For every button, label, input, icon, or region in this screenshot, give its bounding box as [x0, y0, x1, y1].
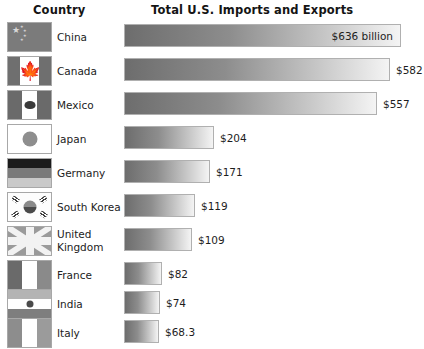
flag-germany-icon [7, 158, 52, 188]
value-bar [124, 194, 195, 217]
country-label: Mexico [57, 90, 94, 120]
country-label-line1: United [57, 228, 103, 241]
chart-header-country: Country [33, 3, 85, 17]
flag-italy-icon [7, 318, 52, 348]
country-label: Germany [57, 158, 105, 188]
country-label-line1: India [57, 298, 83, 311]
chart-row: Germany$171 [0, 158, 424, 192]
chart-row: Italy$68.3 [0, 318, 424, 349]
chart-header-value: Total U.S. Imports and Exports [151, 3, 353, 17]
flag-united-kingdom-icon [7, 226, 52, 256]
flag-india-icon [7, 289, 52, 319]
chart-row: South Korea$119 [0, 192, 424, 226]
country-label-line1: France [57, 269, 92, 282]
country-label-line1: Germany [57, 167, 105, 180]
chart-row: Mexico$557 [0, 90, 424, 124]
flag-canada-icon: 🍁 [7, 56, 52, 86]
country-label: France [57, 260, 92, 290]
bar-value-label: $109 [198, 228, 225, 251]
bar-value-label: $557 [383, 92, 410, 115]
flag-france-icon [7, 260, 52, 290]
bar-value-label: $636 billion [332, 30, 400, 42]
country-label-line1: Italy [57, 327, 80, 340]
flag-mexico-icon [7, 90, 52, 120]
value-bar: $636 billion [124, 24, 401, 47]
bar-value-label: $68.3 [165, 320, 195, 343]
chart-row: UnitedKingdom$109 [0, 226, 424, 260]
country-label: Italy [57, 318, 80, 348]
bar-value-label: $119 [201, 194, 228, 217]
country-label-line2: Kingdom [57, 241, 103, 254]
bar-value-label: $74 [166, 291, 186, 314]
value-bar [124, 291, 160, 314]
country-label: China [57, 22, 87, 52]
value-bar [124, 58, 390, 81]
chart-row: ★★★★★China$636 billion [0, 22, 424, 56]
value-bar [124, 320, 159, 343]
value-bar [124, 262, 162, 285]
flag-japan-icon [7, 124, 52, 154]
country-label-line1: Japan [57, 133, 86, 146]
country-label-line1: South Korea [57, 201, 121, 214]
value-bar [124, 92, 377, 115]
flag-south-korea-icon [7, 192, 52, 222]
value-bar [124, 160, 210, 183]
flag-china-icon: ★★★★★ [7, 22, 52, 52]
bar-value-label: $171 [216, 160, 243, 183]
country-label-line1: Mexico [57, 99, 94, 112]
chart-row: Japan$204 [0, 124, 424, 158]
value-bar [124, 126, 214, 149]
bar-value-label: $82 [168, 262, 188, 285]
value-bar [124, 228, 192, 251]
country-label-line1: Canada [57, 65, 97, 78]
chart-row: 🍁Canada$582 [0, 56, 424, 90]
bar-value-label: $204 [220, 126, 247, 149]
bar-value-label: $582 [396, 58, 423, 81]
country-label: UnitedKingdom [57, 226, 103, 256]
country-label-line1: China [57, 31, 87, 44]
country-label: South Korea [57, 192, 121, 222]
country-label: India [57, 289, 83, 319]
country-label: Japan [57, 124, 86, 154]
country-label: Canada [57, 56, 97, 86]
